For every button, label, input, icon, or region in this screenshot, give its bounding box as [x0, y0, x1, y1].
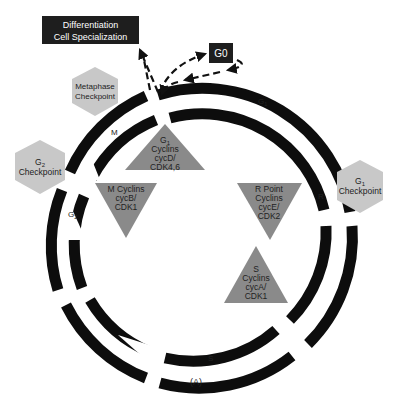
- s-cyclins: S Cyclins cycA/ CDK1: [224, 246, 288, 303]
- differentiation-box[interactable]: Differentiation Cell Specialization: [42, 16, 139, 44]
- svg-text:CDK1: CDK1: [245, 291, 268, 301]
- phase-s-label: S: [208, 354, 213, 363]
- m-cyclins: M Cyclins cycB/ CDK1: [95, 183, 157, 238]
- svg-text:Checkpoint: Checkpoint: [339, 186, 382, 196]
- outer-ring: [51, 88, 352, 388]
- svg-text:CDK1: CDK1: [115, 202, 138, 212]
- phase-r-label: R: [318, 192, 324, 201]
- g0-label: G0: [214, 48, 228, 59]
- metaphase-checkpoint: Metaphase Checkpoint: [72, 67, 118, 116]
- figure-label: (A): [190, 377, 202, 387]
- g2-checkpoint: G2 Checkpoint: [15, 140, 65, 194]
- inner-ring: [74, 114, 326, 362]
- svg-text:Metaphase: Metaphase: [75, 82, 115, 91]
- cell-cycle-diagram: Differentiation Cell Specialization G0 M…: [0, 0, 402, 400]
- svg-text:Checkpoint: Checkpoint: [19, 167, 62, 177]
- arrow-g0-return: [185, 72, 220, 80]
- svg-text:Checkpoint: Checkpoint: [75, 92, 116, 101]
- svg-text:CDK2: CDK2: [258, 211, 281, 221]
- r-point-cyclins: R Point Cyclins cycE/ CDK2: [237, 183, 302, 240]
- specialization-label: Cell Specialization: [54, 32, 128, 42]
- differentiation-label: Differentiation: [63, 20, 118, 30]
- g0-box[interactable]: G0: [209, 43, 233, 63]
- phase-m-label: M: [111, 128, 118, 137]
- svg-text:CDK4,6: CDK4,6: [150, 162, 180, 172]
